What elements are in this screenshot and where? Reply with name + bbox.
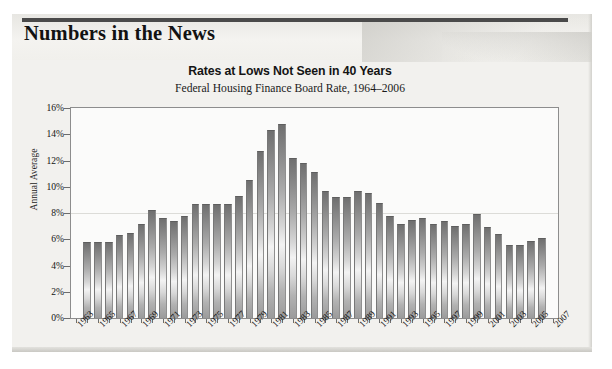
bar: [289, 158, 297, 318]
bar: [235, 196, 243, 318]
bar: [516, 245, 524, 319]
x-axis-labels: 1963196519671969197119731975197719791981…: [71, 322, 558, 362]
bar: [484, 227, 492, 318]
bar: [138, 224, 146, 319]
bar: [170, 221, 178, 318]
bar: [386, 216, 394, 318]
bar: [495, 234, 503, 318]
bar: [376, 203, 384, 319]
bar: [257, 151, 265, 318]
bar: [127, 233, 135, 318]
bar: [83, 242, 91, 318]
bar: [94, 242, 102, 318]
bar: [365, 193, 373, 318]
y-axis-tick: [64, 239, 70, 240]
bar: [538, 238, 546, 318]
y-axis-tick: [64, 292, 70, 293]
y-axis-tick: [64, 134, 70, 135]
bar: [159, 218, 167, 318]
y-axis-tick: [64, 213, 70, 214]
bar: [430, 224, 438, 319]
bar: [408, 220, 416, 318]
news-card: Numbers in the News Rates at Lows Not Se…: [12, 14, 592, 352]
bar: [354, 191, 362, 318]
bar: [451, 226, 459, 318]
bar: [148, 210, 156, 318]
chart-plot-area: Annual Average 1963196519671969197119731…: [12, 14, 592, 352]
y-axis-tick-label: 2%: [22, 287, 64, 297]
y-axis-tick-label: 4%: [22, 261, 64, 271]
bar: [224, 204, 232, 318]
y-axis-tick-label: 14%: [22, 129, 64, 139]
bar: [278, 124, 286, 318]
bar: [419, 218, 427, 318]
y-axis-tick-label: 16%: [22, 103, 64, 113]
bar: [311, 172, 319, 318]
bar-series: [71, 108, 558, 318]
bar: [462, 224, 470, 319]
y-axis-tick: [64, 161, 70, 162]
bar: [300, 163, 308, 318]
bar: [116, 235, 124, 318]
y-axis-tick-label: 0%: [22, 313, 64, 323]
y-axis-tick: [64, 187, 70, 188]
bar: [473, 214, 481, 318]
y-axis-tick-label: 8%: [22, 208, 64, 218]
bar: [246, 180, 254, 318]
bar: [267, 130, 275, 318]
bar: [192, 204, 200, 318]
screenshot-root: Numbers in the News Rates at Lows Not Se…: [0, 0, 612, 369]
bar: [441, 221, 449, 318]
bar: [105, 242, 113, 318]
bar: [397, 224, 405, 319]
bar: [322, 191, 330, 318]
y-axis-tick: [64, 318, 70, 319]
bar: [506, 245, 514, 319]
bar: [332, 197, 340, 318]
y-axis-tick-label: 12%: [22, 156, 64, 166]
bar: [213, 204, 221, 318]
bar: [343, 197, 351, 318]
y-axis-tick: [64, 266, 70, 267]
y-axis-tick-label: 10%: [22, 182, 64, 192]
bar: [527, 241, 535, 318]
bar: [202, 204, 210, 318]
bar: [181, 216, 189, 318]
y-axis-tick-label: 6%: [22, 234, 64, 244]
y-axis-tick: [64, 108, 70, 109]
